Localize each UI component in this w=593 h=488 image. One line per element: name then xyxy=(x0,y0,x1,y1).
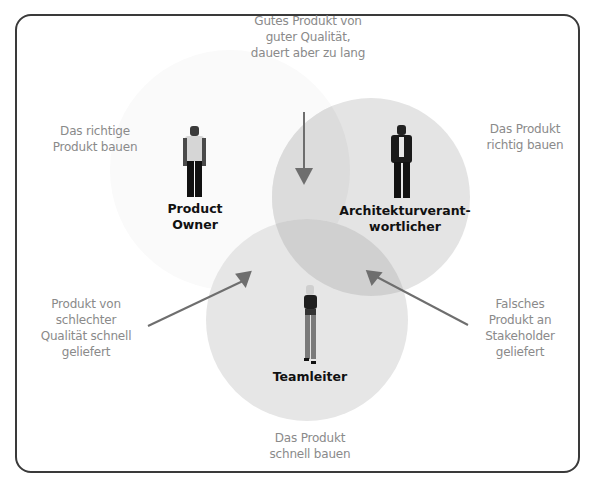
role-product-owner: Product Owner xyxy=(145,201,245,233)
goal-team-lead: Das Produkt schnell bauen xyxy=(250,430,370,462)
annotation-right: Falsches Produkt an Stakeholder geliefer… xyxy=(470,296,570,360)
venn-diagram xyxy=(0,0,593,488)
role-architect: Architekturverant- wortlicher xyxy=(330,203,480,235)
role-team-lead: Teamleiter xyxy=(260,369,360,385)
goal-product-owner: Das richtige Produkt bauen xyxy=(30,123,160,155)
goal-architect: Das Produkt richtig bauen xyxy=(470,121,580,153)
annotation-top: Gutes Produkt von guter Qualität, dauert… xyxy=(228,13,388,61)
annotation-left: Produkt von schlechter Qualität schnell … xyxy=(30,296,142,360)
